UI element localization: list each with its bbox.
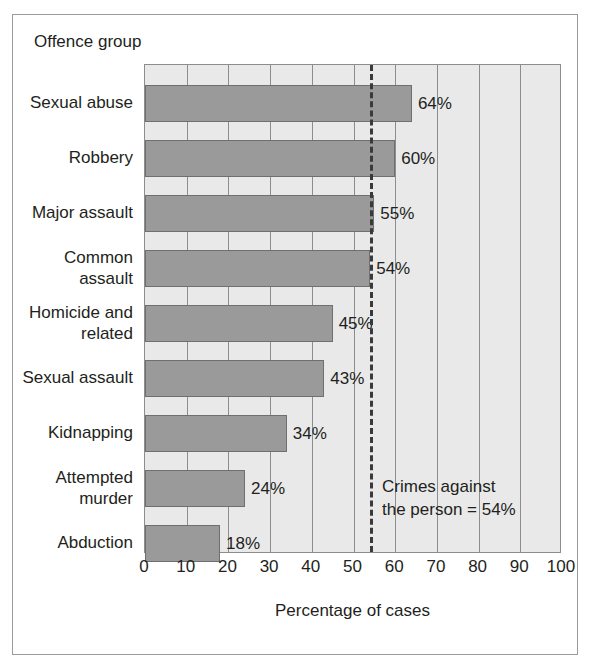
bar	[145, 305, 333, 342]
x-tick-label: 50	[343, 557, 362, 577]
x-tick-label: 30	[260, 557, 279, 577]
x-tick-label: 80	[468, 557, 487, 577]
bar	[145, 470, 245, 507]
category-label: Abduction	[3, 532, 133, 553]
category-label: Kidnapping	[3, 422, 133, 443]
category-label: Sexual abuse	[3, 92, 133, 113]
bar-row: 60%	[145, 140, 562, 177]
x-axis-title: Percentage of cases	[144, 601, 561, 621]
x-tick-label: 10	[176, 557, 195, 577]
x-tick-label: 70	[426, 557, 445, 577]
x-tick-label: 90	[510, 557, 529, 577]
x-tick-label: 40	[301, 557, 320, 577]
threshold-line	[370, 65, 373, 552]
bar	[145, 415, 287, 452]
category-label: Robbery	[3, 147, 133, 168]
bar-value-label: 60%	[395, 149, 435, 169]
category-label: Major assault	[3, 202, 133, 223]
x-tick-label: 100	[547, 557, 575, 577]
bar-value-label: 24%	[245, 479, 285, 499]
bar-value-label: 54%	[370, 259, 410, 279]
bar	[145, 195, 374, 232]
bar	[145, 250, 370, 287]
category-label: Attempted murder	[3, 467, 133, 509]
bar-value-label: 55%	[374, 204, 414, 224]
bar-row: 64%	[145, 85, 562, 122]
x-axis-tick-labels: 0102030405060708090100	[144, 557, 561, 581]
x-tick-label: 20	[218, 557, 237, 577]
bar	[145, 140, 395, 177]
bar	[145, 360, 324, 397]
category-label: Homicide and related	[3, 302, 133, 344]
bar-row: 55%	[145, 195, 562, 232]
category-label: Common assault	[3, 247, 133, 289]
bar-value-label: 64%	[412, 94, 452, 114]
bar-row: 34%	[145, 415, 562, 452]
bar-row: 45%	[145, 305, 562, 342]
bar-row: 43%	[145, 360, 562, 397]
reference-line-annotation: Crimes against the person = 54%	[382, 475, 516, 521]
bar-row: 54%	[145, 250, 562, 287]
figure-frame: Offence group 64%60%55%54%45%43%34%24%18…	[12, 14, 578, 655]
y-axis-title: Offence group	[34, 32, 141, 52]
bar-value-label: 45%	[333, 314, 373, 334]
x-tick-label: 0	[139, 557, 148, 577]
bar-value-label: 34%	[287, 424, 327, 444]
category-label: Sexual assault	[3, 367, 133, 388]
x-tick-label: 60	[385, 557, 404, 577]
bar-value-label: 18%	[220, 534, 260, 554]
chart-figure: Offence group 64%60%55%54%45%43%34%24%18…	[0, 0, 589, 659]
bar-value-label: 43%	[324, 369, 364, 389]
